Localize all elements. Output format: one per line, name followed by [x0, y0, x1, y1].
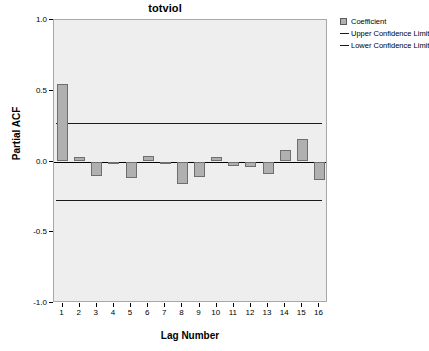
bar-lag-14 [280, 150, 291, 161]
x-tick-mark [284, 303, 285, 307]
x-tick-mark [113, 303, 114, 307]
x-tick-label: 11 [229, 308, 237, 317]
plot-inner [54, 20, 326, 301]
x-tick-mark [62, 303, 63, 307]
x-tick-label: 14 [280, 308, 289, 317]
bar-lag-7 [160, 162, 171, 165]
x-tick-mark [250, 303, 251, 307]
confidence-line-swatch-icon [340, 33, 349, 34]
lower-confidence-limit-line [56, 200, 322, 201]
legend-label: Coefficient [351, 17, 386, 26]
y-tick-mark [49, 302, 53, 303]
x-tick-label: 8 [179, 308, 183, 317]
x-tick-label: 4 [111, 308, 115, 317]
bar-lag-3 [91, 162, 102, 176]
bar-lag-10 [211, 157, 222, 161]
x-tick-mark [79, 303, 80, 307]
x-tick-label: 7 [162, 308, 166, 317]
bar-lag-2 [74, 157, 85, 161]
confidence-line-swatch-icon [340, 45, 349, 46]
y-tick-label: 1.0 [36, 15, 47, 24]
bar-lag-5 [126, 162, 137, 179]
bar-lag-8 [177, 162, 188, 185]
x-tick-label: 13 [263, 308, 272, 317]
y-tick-label: -0.5 [33, 227, 47, 236]
chart-legend: CoefficientUpper Confidence LimitLower C… [340, 16, 425, 52]
x-tick-mark [199, 303, 200, 307]
legend-item: Coefficient [340, 16, 425, 26]
x-tick-label: 6 [145, 308, 149, 317]
x-tick-mark [318, 303, 319, 307]
y-tick-label: -1.0 [33, 298, 47, 307]
y-tick-label: 0.5 [36, 85, 47, 94]
legend-item: Upper Confidence Limit [340, 28, 425, 38]
y-axis-label: Partial ACF [11, 74, 22, 194]
x-tick-label: 9 [196, 308, 200, 317]
x-tick-mark [164, 303, 165, 307]
plot-area [53, 19, 327, 302]
x-tick-mark [96, 303, 97, 307]
x-tick-mark [267, 303, 268, 307]
x-tick-label: 10 [211, 308, 220, 317]
legend-label: Lower Confidence Limit [351, 41, 429, 50]
x-tick-label: 15 [297, 308, 306, 317]
bar-lag-9 [194, 162, 205, 178]
legend-label: Upper Confidence Limit [351, 29, 429, 38]
x-tick-mark [216, 303, 217, 307]
bar-lag-12 [245, 162, 256, 168]
x-tick-label: 12 [245, 308, 254, 317]
bar-lag-13 [263, 162, 274, 175]
bar-lag-15 [297, 139, 308, 162]
bar-lag-1 [57, 84, 68, 162]
x-tick-label: 5 [128, 308, 132, 317]
upper-confidence-limit-line [56, 123, 322, 124]
legend-item: Lower Confidence Limit [340, 40, 425, 50]
x-axis-label: Lag Number [53, 330, 327, 341]
bar-lag-6 [143, 156, 154, 162]
x-tick-mark [147, 303, 148, 307]
x-tick-mark [181, 303, 182, 307]
chart-title: totviol [0, 2, 330, 14]
y-tick-label: 0.0 [36, 156, 47, 165]
x-tick-mark [233, 303, 234, 307]
coefficient-swatch-icon [340, 18, 347, 25]
x-tick-label: 3 [94, 308, 98, 317]
x-tick-label: 1 [59, 308, 63, 317]
x-tick-mark [130, 303, 131, 307]
x-tick-label: 2 [76, 308, 80, 317]
x-tick-mark [301, 303, 302, 307]
bar-lag-4 [108, 162, 119, 164]
bar-lag-16 [314, 162, 325, 180]
x-tick-label: 16 [314, 308, 323, 317]
bar-lag-11 [228, 162, 239, 166]
